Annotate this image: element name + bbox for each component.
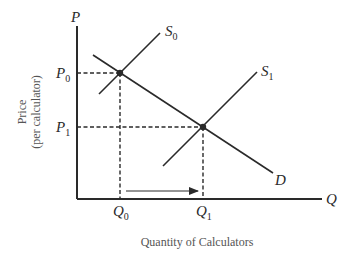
q1-label: Q1 <box>196 203 212 222</box>
equilibrium-point-e0 <box>117 70 123 76</box>
x-axis-title: Quantity of Calculators <box>141 235 254 249</box>
p1-label: P1 <box>55 119 70 138</box>
p0-label: P0 <box>55 65 70 84</box>
s0-label: S0 <box>165 23 178 42</box>
supply-demand-diagram: P Q S0 S1 D P0 P1 Q0 Q1 Quantity of Calc… <box>0 0 355 254</box>
s1-label: S1 <box>261 63 274 82</box>
supply-curve-s0 <box>99 33 160 94</box>
demand-label: D <box>274 172 286 188</box>
x-axis-symbol: Q <box>326 191 337 207</box>
supply-curve-s1 <box>163 72 257 166</box>
y-axis-symbol: P <box>70 9 80 25</box>
q0-label: Q0 <box>113 203 129 222</box>
equilibrium-point-e1 <box>200 124 206 130</box>
y-axis-title-line1: Price <box>15 100 29 125</box>
y-axis-title-line2: (per calculator) <box>29 75 43 149</box>
